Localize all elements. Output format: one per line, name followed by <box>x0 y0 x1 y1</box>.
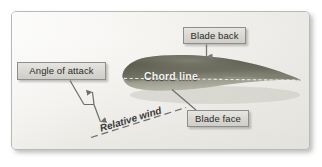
angle-arrow-to-relative-wind <box>94 105 101 123</box>
angle-arrow-to-chord <box>93 92 95 105</box>
callout-angle-of-attack-label: Angle of attack <box>29 66 93 76</box>
callout-blade-back: Blade back <box>183 27 246 44</box>
angle-of-attack-leader <box>70 81 84 105</box>
chord-line-label: Chord line <box>144 70 198 82</box>
callout-blade-face-label: Blade face <box>195 114 241 124</box>
diagram-vector-layer <box>0 0 322 167</box>
airfoil-diagram: Angle of attack Blade back Blade face Ch… <box>0 0 322 167</box>
callout-blade-back-label: Blade back <box>190 31 238 41</box>
callout-angle-of-attack: Angle of attack <box>17 62 106 80</box>
callout-blade-face: Blade face <box>187 110 249 127</box>
